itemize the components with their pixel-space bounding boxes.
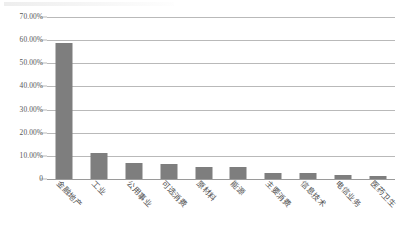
y-axis-tick-label: 30.00% <box>20 106 43 113</box>
y-axis-tick-label: 40.00% <box>20 83 43 90</box>
bar <box>230 167 247 179</box>
x-axis-category-label: 电信业务 <box>333 180 362 209</box>
bar-chart: 70.00%60.00%50.00%40.00%30.00%20.00%10.0… <box>0 0 403 237</box>
x-axis-category-label: 信息技术 <box>298 180 327 209</box>
x-axis-category-label: 工业 <box>90 180 107 197</box>
plot-area: 70.00%60.00%50.00%40.00%30.00%20.00%10.0… <box>47 17 395 179</box>
bar <box>91 153 108 179</box>
x-axis-category-label: 可选消费 <box>159 180 188 209</box>
bar-slot <box>186 17 221 179</box>
x-axis-category-label: 能源 <box>229 180 246 197</box>
bar-slot <box>47 17 82 179</box>
bar-slot <box>117 17 152 179</box>
y-axis-tick-label: 0 <box>39 175 43 182</box>
x-axis-labels: 金融地产工业公用事业可选消费原材料能源主要消费信息技术电信业务医药卫生 <box>47 180 395 237</box>
x-axis-category-label: 原材料 <box>194 180 217 203</box>
bar-slot <box>325 17 360 179</box>
bar <box>265 173 282 179</box>
y-axis-tick-label: 50.00% <box>20 60 43 67</box>
y-axis-tick-label: 60.00% <box>20 36 43 43</box>
bar <box>160 164 177 180</box>
x-axis-category-label: 医药卫生 <box>368 180 397 209</box>
x-axis-category-label: 公用事业 <box>124 180 153 209</box>
bars <box>47 17 395 179</box>
bar <box>195 167 212 179</box>
scan-artifact <box>4 2 174 6</box>
bar <box>369 176 386 179</box>
bar-slot <box>291 17 326 179</box>
y-axis-tick-label: 20.00% <box>20 129 43 136</box>
bar <box>125 163 142 179</box>
y-axis-tick-label: 10.00% <box>20 152 43 159</box>
bar <box>56 43 73 179</box>
bar-slot <box>221 17 256 179</box>
bar <box>299 173 316 179</box>
bar <box>334 175 351 179</box>
y-axis-tick-label: 70.00% <box>20 13 43 20</box>
x-axis-category-label: 金融地产 <box>55 180 84 209</box>
bar-slot <box>82 17 117 179</box>
bar-slot <box>360 17 395 179</box>
bar-slot <box>256 17 291 179</box>
bar-slot <box>151 17 186 179</box>
x-axis-category-label: 主要消费 <box>264 180 293 209</box>
